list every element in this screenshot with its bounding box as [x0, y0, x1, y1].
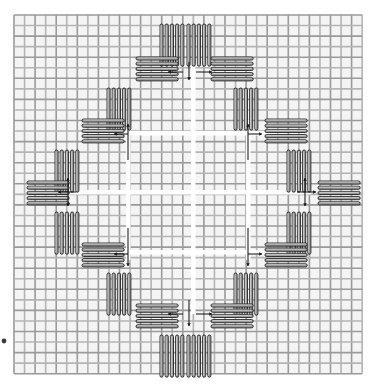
- satin-stitch: [208, 335, 211, 377]
- satin-stitch: [211, 78, 253, 81]
- satin-stitch: [265, 119, 307, 122]
- edge-mark-layer: [2, 339, 7, 344]
- satin-stitch: [197, 335, 200, 377]
- satin-stitch: [136, 309, 178, 312]
- satin-stitch: [292, 150, 295, 192]
- satin-stitch: [123, 273, 126, 315]
- satin-stitch: [318, 202, 360, 205]
- satin-stitch: [107, 273, 110, 315]
- chart-stage: [0, 0, 373, 384]
- satin-stitch: [82, 129, 124, 132]
- satin-stitch: [265, 135, 307, 138]
- satin-stitch: [181, 24, 184, 66]
- satin-stitch: [128, 273, 131, 315]
- satin-stitch: [160, 335, 163, 377]
- satin-stitch: [234, 88, 237, 130]
- satin-stitch: [211, 67, 253, 70]
- satin-stitch: [308, 212, 311, 254]
- satin-stitch: [211, 62, 253, 65]
- satin-stitch: [27, 202, 69, 205]
- satin-stitch: [136, 57, 178, 60]
- satin-stitch: [27, 181, 69, 184]
- channel-horizontal-lower: [110, 250, 270, 255]
- satin-stitch: [82, 135, 124, 138]
- satin-stitch: [211, 314, 253, 317]
- satin-stitch: [82, 259, 124, 262]
- satin-stitch: [136, 314, 178, 317]
- satin-stitch: [192, 24, 195, 66]
- satin-stitch: [211, 325, 253, 328]
- satin-stitch: [211, 320, 253, 323]
- satin-stitch: [76, 212, 79, 254]
- satin-stitch: [136, 304, 178, 307]
- satin-stitch: [82, 140, 124, 143]
- satin-stitch: [255, 88, 258, 130]
- satin-stitch: [170, 335, 173, 377]
- satin-stitch: [82, 243, 124, 246]
- satin-stitch: [318, 186, 360, 189]
- satin-stitch: [82, 264, 124, 267]
- satin-stitch: [71, 212, 74, 254]
- satin-stitch: [255, 273, 258, 315]
- satin-stitch: [211, 73, 253, 76]
- satin-stitch: [211, 309, 253, 312]
- satin-stitch: [136, 325, 178, 328]
- satin-stitch: [136, 320, 178, 323]
- satin-stitch: [181, 335, 184, 377]
- satin-stitch: [136, 73, 178, 76]
- satin-stitch: [192, 335, 195, 377]
- satin-stitch: [117, 273, 120, 315]
- satin-stitch: [318, 191, 360, 194]
- satin-stitch: [211, 304, 253, 307]
- satin-stitch: [203, 335, 206, 377]
- satin-stitch: [82, 124, 124, 127]
- satin-stitch: [265, 259, 307, 262]
- satin-stitch: [297, 150, 300, 192]
- satin-stitch: [265, 129, 307, 132]
- satin-stitch: [265, 264, 307, 267]
- satin-stitch: [55, 212, 58, 254]
- satin-stitch: [65, 212, 68, 254]
- left-edge-tick: [2, 339, 7, 344]
- satin-stitch: [211, 57, 253, 60]
- satin-stitch: [265, 124, 307, 127]
- satin-stitch: [27, 186, 69, 189]
- satin-stitch: [244, 88, 247, 130]
- satin-stitch: [27, 197, 69, 200]
- satin-stitch: [60, 212, 63, 254]
- satin-stitch: [128, 88, 131, 130]
- satin-stitch: [82, 248, 124, 251]
- satin-stitch: [76, 150, 79, 192]
- satin-stitch: [208, 24, 211, 66]
- satin-stitch: [136, 62, 178, 65]
- satin-stitch: [82, 119, 124, 122]
- satin-stitch: [136, 67, 178, 70]
- satin-stitch: [187, 24, 190, 66]
- channel-vertical-center: [191, 62, 196, 314]
- satin-stitch: [239, 88, 242, 130]
- satin-stitch: [287, 150, 290, 192]
- satin-stitch: [112, 273, 115, 315]
- satin-stitch: [318, 181, 360, 184]
- satin-stitch: [165, 335, 168, 377]
- channel-horizontal-upper: [110, 131, 270, 136]
- channel-horizontal-center: [66, 190, 311, 195]
- satin-stitch: [71, 150, 74, 192]
- satin-stitch: [187, 335, 190, 377]
- satin-stitch: [203, 24, 206, 66]
- satin-stitch: [136, 78, 178, 81]
- satin-stitch: [265, 253, 307, 256]
- satin-stitch: [265, 140, 307, 143]
- needlework-chart: [0, 0, 373, 384]
- satin-stitch: [308, 150, 311, 192]
- satin-stitch: [197, 24, 200, 66]
- satin-stitch: [250, 88, 253, 130]
- satin-stitch: [265, 248, 307, 251]
- satin-stitch: [265, 243, 307, 246]
- satin-stitch: [318, 197, 360, 200]
- satin-stitch: [176, 335, 179, 377]
